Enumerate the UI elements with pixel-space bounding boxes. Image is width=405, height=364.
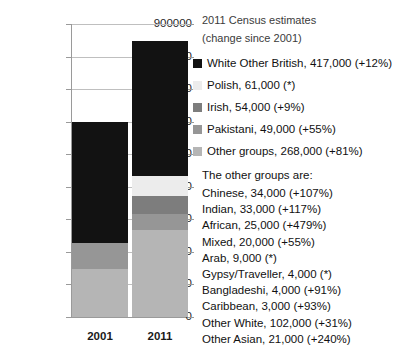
legend-item-label: Other groups, 268,000 (+81%) [207,144,363,159]
legend-swatch-icon [193,81,202,90]
legend-swatch-icon [193,147,202,156]
bar-segment [72,122,128,243]
stacked-bar-chart: 0100000200000300000400000500000600000700… [0,0,192,364]
legend-item-label: Polish, 61,000 (*) [207,78,295,93]
other-group-item: Chinese, 34,000 (+107%) [202,188,333,200]
x-tick-label: 2011 [125,330,195,342]
y-tick-mark [66,317,72,318]
bar-segment [72,269,128,317]
legend-swatch-icon [193,125,202,134]
other-group-item: Gypsy/Traveller, 4,000 (*) [202,269,332,281]
other-group-item: Caribbean, 3,000 (+93%) [202,301,331,313]
other-group-item: Arab, 9,000 (*) [202,253,277,265]
bar-2011 [132,41,188,317]
other-group-item: Other Asian, 21,000 (+240%) [202,334,351,346]
other-groups-title: The other groups are: [202,170,313,182]
bar-segment [132,41,188,177]
other-group-item: African, 25,000 (+479%) [202,220,326,232]
bar-segment [132,214,188,230]
bars-area [72,24,188,317]
legend-heading-line1: 2011 Census estimates [202,15,316,26]
bar-segment [132,230,188,317]
bar-segment [132,196,188,214]
bar-segment [132,176,188,196]
legend-swatch-icon [193,103,202,112]
legend-panel: 2011 Census estimates (change since 2001… [193,0,405,364]
legend-item-label: Irish, 54,000 (+9%) [207,100,304,115]
legend-swatch-icon [193,59,202,68]
other-group-item: Bangladeshi, 4,000 (+91%) [202,285,341,297]
other-group-item: Other White, 102,000 (+31%) [202,318,352,330]
other-group-item: Indian, 33,000 (+117%) [202,204,321,216]
other-group-item: Mixed, 20,000 (+55%) [202,237,315,249]
bar-segment [72,243,128,269]
bar-2001 [72,122,128,317]
legend-item-label: White Other British, 417,000 (+12%) [207,56,392,71]
legend-item-label: Pakistani, 49,000 (+55%) [207,122,336,137]
legend-heading-line2: (change since 2001) [202,33,302,44]
